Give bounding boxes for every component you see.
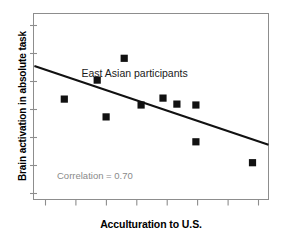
data-point xyxy=(192,138,199,145)
data-point xyxy=(103,113,110,120)
data-point xyxy=(192,101,199,108)
y-axis-ticks xyxy=(30,26,37,194)
data-point xyxy=(138,101,145,108)
scatter-plot-figure: Brain activation in absolute task East A… xyxy=(0,0,281,244)
data-point xyxy=(61,96,68,103)
plot-overlay: East Asian participants Correlation = 0.… xyxy=(0,0,281,244)
series-annotation-label: East Asian participants xyxy=(81,67,187,79)
data-point xyxy=(173,101,180,108)
data-point xyxy=(159,95,166,102)
x-axis-title: Acculturation to U.S. xyxy=(33,218,269,230)
data-point xyxy=(249,159,256,166)
correlation-annotation-label: Correlation = 0.70 xyxy=(57,170,133,181)
x-axis-ticks xyxy=(46,200,259,206)
data-point xyxy=(121,55,128,62)
